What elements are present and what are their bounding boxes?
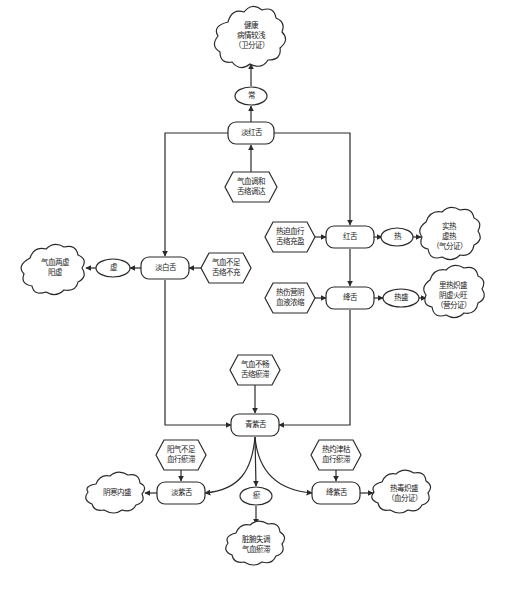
label-red: 红舌	[326, 226, 374, 248]
label-crimson-purple: 绛紫舌	[312, 482, 360, 504]
label-pale-red: 淡红舌	[228, 122, 274, 144]
label-qi-blood-deficient: 气血不足 舌络不充	[201, 253, 251, 283]
label-severe-heat: 里热炽盛 阴虚火旺 （营分证）	[424, 275, 482, 317]
label-blue-purple: 青紫舌	[231, 414, 279, 436]
label-healthy: 健康 病情较浅 （卫分证）	[220, 14, 282, 58]
label-heat-excess: 热盛	[383, 289, 419, 307]
label-heat-depletes-fluid: 热灼津枯 血行瘀滞	[311, 440, 361, 470]
label-deficiency: 虚	[96, 259, 130, 277]
label-heat-injures-yin: 热伤营阴 血液浓缩	[265, 283, 315, 313]
label-qi-blood-stagnant: 气血不畅 舌络瘀滞	[230, 355, 280, 385]
label-heat: 热	[381, 228, 413, 246]
label-yang-deficient: 阳气不足 血行瘀滞	[156, 440, 206, 470]
label-yin-cold: 阴寒内盛	[90, 482, 144, 504]
label-normal: 常	[235, 87, 267, 105]
label-heat-toxin: 热毒炽盛 （血分证）	[376, 479, 432, 509]
label-pale-purple: 淡紫舌	[157, 482, 205, 504]
label-stasis: 瘀	[240, 487, 272, 505]
label-pale-white: 淡白舌	[141, 257, 189, 279]
label-crimson: 绛舌	[326, 287, 374, 309]
label-qi-blood-harmony: 气血调和 舌络调达	[225, 172, 277, 202]
label-excess-heat: 实热 虚热 （气分证）	[420, 216, 478, 258]
label-heat-forces-blood: 热迫血行 舌络充盈	[265, 222, 315, 252]
label-organ-disorder: 脏腑失调 气血瘀滞	[228, 530, 284, 560]
label-dual-deficiency: 气血两虚 阳虚	[26, 250, 84, 286]
